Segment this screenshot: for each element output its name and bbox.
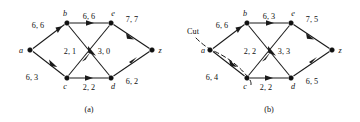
node-b-c (245, 76, 250, 81)
node-d (109, 76, 114, 81)
arrowhead-b-e (86, 20, 94, 26)
node-b-b (245, 21, 250, 26)
edge-label-a-b: 6, 6 (32, 21, 44, 30)
node-label-z: z (157, 46, 162, 55)
cut-label: Cut (187, 27, 200, 36)
node-e (109, 21, 114, 26)
edge-label-b-b-e: 6, 3 (263, 12, 275, 21)
node-label-d: d (111, 82, 116, 91)
arrowhead-b-a-b (236, 26, 243, 33)
edge-label-b-b-d: 3, 3 (278, 47, 290, 56)
edge-label-b-e: 6, 6 (83, 12, 95, 21)
panel-b: Cut (187, 9, 342, 115)
edge-d-z (114, 52, 150, 77)
node-label-c: c (63, 82, 67, 91)
arrowhead-a-b (56, 26, 63, 33)
edge-label-b-c-e: 2, 2 (244, 47, 256, 56)
edge-label-b-e-z: 7, 5 (306, 15, 318, 24)
figure-root: a b c e d z 6, 6 6, 3 6, 6 3, 0 2, 1 2, … (0, 0, 360, 122)
arrowhead-b-b-e (266, 20, 274, 26)
caption-panel-b: (b) (264, 105, 274, 114)
node-label-b-a: a (201, 46, 205, 55)
node-c (65, 76, 70, 81)
node-b (65, 21, 70, 26)
network-flow-figure: a b c e d z 6, 6 6, 3 6, 6 3, 0 2, 1 2, … (0, 0, 360, 122)
edge-label-c-d: 2, 2 (83, 83, 95, 92)
edge-label-b-d-z: 6, 5 (306, 77, 318, 86)
node-label-b-z: z (337, 46, 342, 55)
node-b-z (330, 48, 335, 53)
edge-e-z (114, 25, 150, 49)
node-label-b-b: b (243, 9, 247, 18)
panel-a-edge-labels: 6, 6 6, 3 6, 6 3, 0 2, 1 2, 2 7, 7 6, 2 (26, 12, 138, 92)
node-z (150, 48, 155, 53)
panel-a: a b c e d z 6, 6 6, 3 6, 6 3, 0 2, 1 2, … (19, 9, 162, 115)
node-label-b: b (63, 9, 67, 18)
edge-b-e-z (294, 25, 330, 49)
panel-b-edges (213, 20, 330, 81)
edge-label-d-z: 6, 2 (126, 77, 138, 86)
arrowhead-b-a-c (229, 60, 237, 68)
panel-b-edge-labels: 6, 6 6, 4 6, 3 3, 3 2, 2 2, 2 7, 5 6, 5 (206, 12, 318, 92)
caption-panel-a: (a) (84, 105, 93, 114)
node-b-d (289, 76, 294, 81)
edge-label-b-d: 3, 0 (98, 47, 110, 56)
node-label-e: e (111, 9, 115, 18)
arrowhead-a-c (49, 60, 57, 68)
panel-a-edges (33, 20, 150, 81)
edge-label-b-a-b: 6, 6 (216, 21, 228, 30)
edge-label-a-c: 6, 3 (26, 73, 38, 82)
edge-b-d-z (294, 52, 330, 77)
node-label-b-e: e (291, 9, 295, 18)
node-b-a (208, 48, 213, 53)
node-label-b-d: d (291, 82, 296, 91)
edge-label-c-e: 2, 1 (64, 47, 76, 56)
arrowhead-b-c-d (265, 75, 273, 81)
arrowhead-e-z (126, 33, 134, 40)
node-label-a: a (19, 46, 23, 55)
node-a (28, 48, 33, 53)
node-b-e (289, 21, 294, 26)
edge-label-e-z: 7, 7 (126, 15, 138, 24)
edge-label-b-a-c: 6, 4 (206, 73, 218, 82)
arrowhead-c-d (85, 75, 93, 81)
node-label-b-c: c (243, 82, 247, 91)
edge-label-b-c-d: 2, 2 (260, 83, 272, 92)
